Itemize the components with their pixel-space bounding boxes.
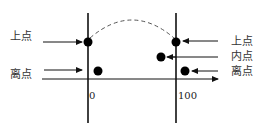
right-off-point — [181, 67, 190, 76]
left-on-point-label: 上点 — [10, 31, 32, 42]
right-on-point-label: 上点 — [231, 36, 253, 47]
right-in-point-label: 内点 — [231, 51, 253, 62]
upper-bound-tick-label: 100 — [178, 91, 197, 101]
boundary-value-diagram: 上点 离点 上点 内点 离点 0 100 — [0, 0, 261, 134]
right-in-point — [157, 53, 166, 62]
left-off-point — [94, 67, 103, 76]
dashed-range-arc — [90, 20, 174, 38]
lower-bound-tick-label: 0 — [89, 91, 95, 101]
right-on-point — [172, 38, 181, 47]
left-on-point — [84, 38, 93, 47]
diagram-canvas — [0, 0, 261, 134]
left-off-point-label: 离点 — [10, 69, 32, 80]
right-off-point-label: 离点 — [231, 66, 253, 77]
